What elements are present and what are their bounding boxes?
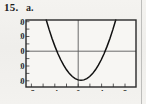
x-tick-label-neg8: -8	[28, 89, 35, 92]
y-tick-label-0: 0	[21, 47, 25, 56]
parabola-graph-figure: 40 20 0 -20 -40 -8 -4 0 4 8	[20, 17, 140, 91]
problem-number: 15.	[4, 1, 18, 14]
problem-part-label: a.	[26, 1, 34, 14]
y-tick-label-neg20: -20	[20, 62, 25, 71]
y-tick-label-40: 40	[20, 18, 25, 27]
axis-labels-layer: 40 20 0 -20 -40 -8 -4 0 4 8	[20, 17, 140, 91]
x-tick-label-0: 0	[76, 89, 80, 92]
x-tick-label-neg4: -4	[51, 89, 58, 92]
page-edge-line	[141, 0, 142, 104]
y-tick-label-neg40: -40	[20, 77, 25, 86]
y-tick-label-20: 20	[20, 32, 25, 41]
x-tick-label-4: 4	[100, 89, 104, 92]
x-tick-label-8: 8	[123, 89, 127, 92]
screenshot-root: 15. a.	[0, 0, 146, 104]
